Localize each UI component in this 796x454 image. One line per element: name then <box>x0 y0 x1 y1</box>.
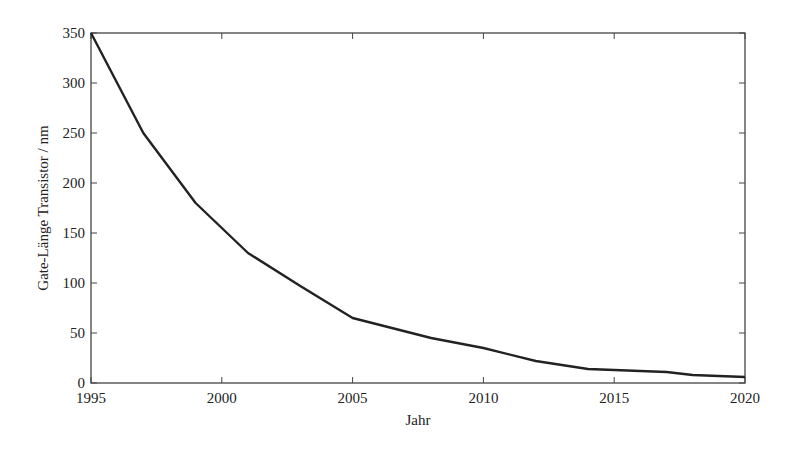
line-chart: 199520002005201020152020 050100150200250… <box>0 0 796 454</box>
x-tick-label: 2020 <box>730 390 760 406</box>
x-tick-label: 2015 <box>599 390 629 406</box>
y-tick-label: 300 <box>63 75 86 91</box>
y-tick-label: 200 <box>63 175 86 191</box>
y-axis-label: Gate-Länge Transistor / nm <box>35 125 51 291</box>
x-tick-label: 1995 <box>76 390 106 406</box>
y-axis: 050100150200250300350 <box>63 25 746 391</box>
plot-frame <box>91 33 745 383</box>
y-tick-label: 350 <box>63 25 86 41</box>
y-tick-label: 250 <box>63 125 86 141</box>
y-tick-label: 50 <box>70 325 85 341</box>
x-tick-label: 2010 <box>468 390 498 406</box>
x-axis: 199520002005201020152020 <box>76 33 760 406</box>
y-tick-label: 100 <box>63 275 86 291</box>
x-tick-label: 2000 <box>207 390 237 406</box>
plot-border <box>91 33 745 383</box>
y-tick-label: 0 <box>78 375 86 391</box>
data-line <box>91 33 745 377</box>
x-tick-label: 2005 <box>338 390 368 406</box>
y-tick-label: 150 <box>63 225 86 241</box>
x-axis-label: Jahr <box>406 412 431 428</box>
